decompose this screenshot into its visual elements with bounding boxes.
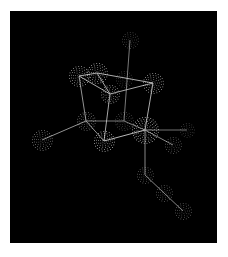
bond-A-C — [79, 76, 110, 94]
atom-K — [165, 137, 182, 154]
bond-M2-M3 — [164, 193, 183, 211]
bond-B-C — [97, 73, 110, 94]
molecule-scene — [0, 0, 228, 257]
bond-M1-M2 — [145, 175, 164, 193]
bond-E-I — [145, 83, 153, 130]
atom-layer — [32, 32, 195, 220]
bond-C-E — [110, 83, 153, 94]
bond-layer — [42, 40, 187, 211]
bond-I-K — [145, 130, 173, 145]
bond-H-I — [104, 130, 145, 141]
bond-top-G — [124, 40, 130, 121]
atom-D — [116, 71, 133, 88]
atom-L — [32, 130, 53, 151]
